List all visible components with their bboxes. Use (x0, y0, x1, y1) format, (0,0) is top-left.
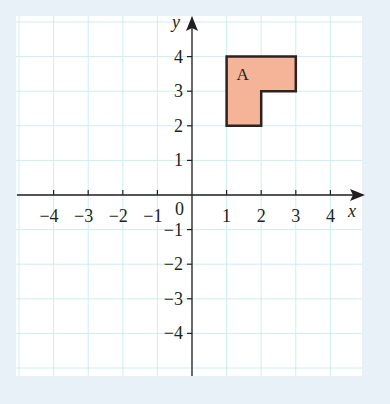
x-axis-label: x (347, 201, 356, 221)
shape-a-label: A (237, 65, 250, 84)
coordinate-plane: A −4−3−2−112344321−1−2−3−4 0 x y (0, 0, 390, 404)
paper (16, 16, 362, 376)
x-tick-label: 2 (257, 206, 266, 226)
x-tick-label: 4 (326, 206, 335, 226)
y-tick-label: 4 (174, 47, 183, 67)
x-tick-label: −3 (74, 206, 93, 226)
y-tick-label: 2 (174, 116, 183, 136)
y-tick-label: −2 (164, 254, 183, 274)
y-axis-label: y (170, 12, 180, 32)
y-tick-label: 1 (174, 150, 183, 170)
x-tick-label: −4 (39, 206, 58, 226)
x-tick-label: 3 (291, 206, 300, 226)
x-tick-label: 1 (222, 206, 231, 226)
y-tick-label: −1 (164, 220, 183, 240)
origin-label: 0 (175, 199, 184, 219)
y-tick-label: 3 (174, 81, 183, 101)
y-tick-label: −3 (164, 289, 183, 309)
x-tick-label: −2 (109, 206, 128, 226)
x-tick-label: −1 (143, 206, 162, 226)
y-tick-label: −4 (164, 323, 183, 343)
